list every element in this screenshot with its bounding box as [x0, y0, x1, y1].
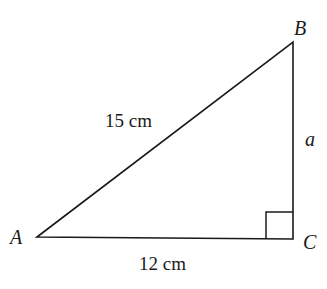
hypotenuse-length-label: 15 cm — [105, 110, 152, 131]
triangle-abc — [37, 42, 293, 239]
vertex-label-a: A — [8, 226, 23, 248]
base-length-label: 12 cm — [139, 253, 186, 274]
height-side-label: a — [305, 128, 315, 150]
vertex-label-b: B — [294, 17, 306, 39]
vertex-label-c: C — [303, 231, 317, 253]
right-angle-marker — [266, 212, 293, 239]
triangle-diagram: A B C 15 cm 12 cm a — [0, 0, 327, 289]
